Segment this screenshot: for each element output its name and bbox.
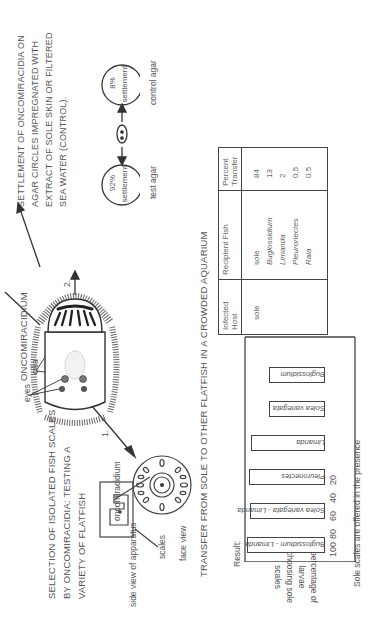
apparatus-side-view-icon <box>100 477 158 547</box>
bar-label: Buglossidium - Limanda <box>247 533 325 549</box>
control-agar-label: control agar <box>148 60 158 105</box>
transfer-table: Infected Host Recipient Fish Percent Tra… <box>218 147 328 335</box>
recipient-fish: Buglossidium <box>263 195 276 265</box>
bar-label: Solea variegata <box>269 397 325 413</box>
percent-transfer: 2 <box>276 152 289 178</box>
transfer-title: TRANSFER FROM SOLE TO OTHER FLATFISH IN … <box>196 231 211 577</box>
header-recipient-fish: Recipient Fish <box>219 191 242 280</box>
percent-transfer: 0.5 <box>289 152 302 178</box>
percent-transfer: 84 <box>250 152 263 178</box>
tick: 40 <box>328 493 338 503</box>
control-percent: 8% <box>108 71 117 95</box>
percent-cell: 84 13 2 0.5 0.5 <box>242 148 328 191</box>
header-percent-transfer: Percent Transfer <box>219 148 242 191</box>
bar-label: Limanda <box>251 431 325 447</box>
control-word: settlement <box>120 64 129 104</box>
recipient-fish: Raia <box>302 195 315 265</box>
apparatus-face-view-icon <box>133 456 191 514</box>
bar-label: Solea variegata - Limanda <box>250 499 325 515</box>
tick: 80 <box>328 529 338 539</box>
eyes-label: eyes <box>22 384 32 402</box>
recipient-fish: Limanda <box>276 195 289 265</box>
bar-label: Buglossidium <box>269 363 325 379</box>
tick: 100 <box>328 542 338 557</box>
tick: 60 <box>328 511 338 521</box>
larva-title: ONCOMIRACIDIUM <box>16 292 31 381</box>
infected-host-cell: sole <box>242 280 328 335</box>
percent-transfer: 13 <box>263 152 276 178</box>
percent-transfer: 0.5 <box>302 152 315 178</box>
header-infected-host: Infected Host <box>219 280 242 335</box>
settlement-drawings <box>0 0 140 287</box>
tick: 20 <box>328 475 338 485</box>
footer-note: Sole scales are offered in the presence <box>352 440 362 587</box>
recipient-cell: sole Buglossidium Limanda Pleuronectes R… <box>242 191 328 280</box>
figure: SELECTION OF ISOLATED FISH SCALES BY ONC… <box>0 0 368 617</box>
bar-label: Pleuronectes <box>249 465 325 481</box>
arrow-1-label: 1. <box>100 430 110 437</box>
test-percent: 92% <box>108 171 117 195</box>
recipient-fish: Pleuronectes <box>289 195 302 265</box>
test-agar-label: test agar <box>148 166 158 199</box>
cilia-label: cilia <box>30 359 40 374</box>
arrow-1-icon <box>86 399 135 457</box>
bar-labels: Buglossidium - Limanda Solea variegata -… <box>247 337 327 557</box>
oncomiracidium-icon <box>30 297 117 423</box>
test-word: settlement <box>120 164 129 204</box>
recipient-fish: sole <box>250 195 263 265</box>
